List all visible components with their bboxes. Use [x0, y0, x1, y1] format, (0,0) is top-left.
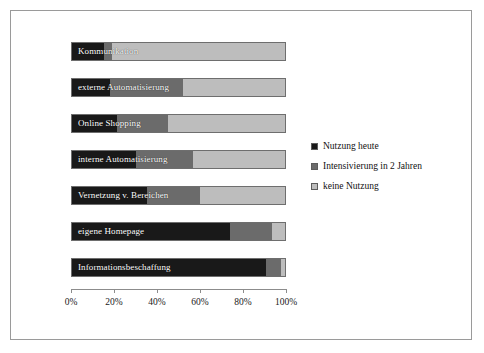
bar-segment[interactable]: [147, 187, 200, 204]
x-axis-tick: [114, 289, 115, 293]
chart-legend: Nutzung heuteIntensivierung in 2 Jahrenk…: [311, 141, 461, 201]
x-axis-tick: [200, 289, 201, 293]
legend-item[interactable]: keine Nutzung: [311, 181, 461, 191]
chart-frame: Kommunikationexterne AutomatisierungOnli…: [10, 10, 472, 340]
legend-item[interactable]: Intensivierung in 2 Jahren: [311, 161, 461, 171]
bar-segment[interactable]: [281, 259, 285, 276]
bar-segment[interactable]: [72, 43, 104, 60]
legend-item[interactable]: Nutzung heute: [311, 141, 461, 151]
x-axis-tick: [286, 289, 287, 293]
bar-segment[interactable]: [200, 187, 285, 204]
stacked-bar[interactable]: [71, 42, 286, 61]
bar-segment[interactable]: [72, 187, 147, 204]
bar-segment[interactable]: [117, 115, 168, 132]
bar-segment[interactable]: [72, 115, 117, 132]
bar-row[interactable]: Vernetzung v. Bereichen: [71, 186, 286, 205]
bar-segment[interactable]: [193, 151, 285, 168]
stacked-bar[interactable]: [71, 150, 286, 169]
stacked-bar[interactable]: [71, 78, 286, 97]
bar-segment[interactable]: [72, 79, 110, 96]
bar-segment[interactable]: [104, 43, 113, 60]
x-axis-tick-label: 40%: [148, 297, 165, 307]
x-axis-tick-label: 80%: [234, 297, 251, 307]
bar-segment[interactable]: [183, 79, 285, 96]
bar-segment[interactable]: [266, 259, 281, 276]
legend-label: Nutzung heute: [323, 141, 379, 151]
bar-segment[interactable]: [72, 223, 230, 240]
bar-row[interactable]: Online Shopping: [71, 114, 286, 133]
bar-row[interactable]: Informationsbeschaffung: [71, 258, 286, 277]
bar-segment[interactable]: [136, 151, 194, 168]
bar-row[interactable]: externe Automatisierung: [71, 78, 286, 97]
stacked-bar[interactable]: [71, 222, 286, 241]
legend-swatch-icon: [311, 183, 318, 190]
legend-label: Intensivierung in 2 Jahren: [323, 161, 422, 171]
x-axis-tick: [157, 289, 158, 293]
bar-segment[interactable]: [110, 79, 182, 96]
x-axis-tick-label: 100%: [275, 297, 297, 307]
bar-row[interactable]: Kommunikation: [71, 42, 286, 61]
stacked-bar[interactable]: [71, 186, 286, 205]
stacked-bar[interactable]: [71, 114, 286, 133]
x-axis-tick-label: 0%: [65, 297, 78, 307]
bar-row[interactable]: interne Automatisierung: [71, 150, 286, 169]
legend-label: keine Nutzung: [323, 181, 379, 191]
x-axis-tick: [71, 289, 72, 293]
bar-row[interactable]: eigene Homepage: [71, 222, 286, 241]
bar-segment[interactable]: [72, 151, 136, 168]
x-axis-line: [71, 289, 286, 290]
bar-segment[interactable]: [168, 115, 285, 132]
x-axis-tick: [243, 289, 244, 293]
stacked-bar[interactable]: [71, 258, 286, 277]
bar-segment[interactable]: [112, 43, 285, 60]
plot-area: Kommunikationexterne AutomatisierungOnli…: [71, 39, 286, 289]
bar-segment[interactable]: [72, 259, 266, 276]
legend-swatch-icon: [311, 143, 318, 150]
x-axis: 0%20%40%60%80%100%: [71, 289, 286, 317]
bar-segment[interactable]: [272, 223, 285, 240]
x-axis-tick-label: 60%: [191, 297, 208, 307]
x-axis-tick-label: 20%: [105, 297, 122, 307]
bar-segment[interactable]: [230, 223, 273, 240]
legend-swatch-icon: [311, 163, 318, 170]
